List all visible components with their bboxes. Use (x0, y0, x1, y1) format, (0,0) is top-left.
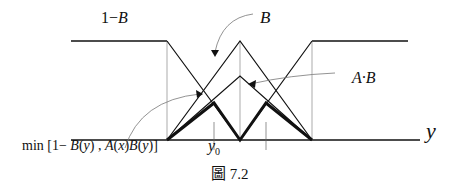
label-y0: y0 (208, 137, 220, 157)
b-arrowhead-icon (211, 50, 219, 57)
figure-caption: 圖 7.2 (211, 162, 249, 183)
min-curve (167, 103, 312, 140)
label-a-dot-b: A·B (352, 69, 376, 87)
fuzzy-diagram (0, 0, 456, 184)
label-y-axis: y (426, 118, 436, 144)
label-b: B (260, 8, 270, 28)
label-min-expr: min [1− B(y) , A(x)B(y)] (22, 138, 158, 154)
a-dot-b-pointer-arrow (250, 73, 335, 84)
one-minus-b-v (167, 41, 312, 140)
a-dot-b-triangle (167, 76, 312, 140)
b-triangle (167, 41, 312, 140)
label-one-minus-b: 1−B (101, 9, 128, 27)
b-pointer-arrow (215, 14, 253, 52)
